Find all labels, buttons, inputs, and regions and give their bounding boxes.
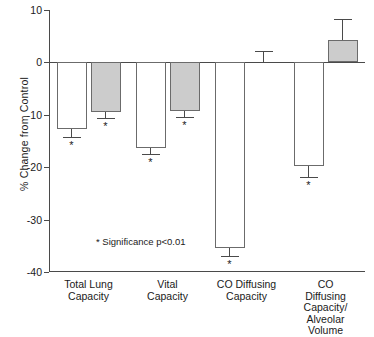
plot-area: 100-10-20-30-40 ****** <box>49 10 365 272</box>
error-bar-cap-open-0 <box>63 137 81 138</box>
bar-filled-1 <box>170 62 200 111</box>
significance-star-open-3: * <box>306 180 310 191</box>
significance-star-filled-0: * <box>103 121 107 132</box>
significance-star-open-2: * <box>227 259 231 270</box>
error-bar-stem-filled-2 <box>263 51 264 63</box>
y-tick-label: -30 <box>27 214 42 225</box>
significance-star-open-0: * <box>69 140 73 151</box>
error-bar-stem-filled-3 <box>342 19 343 40</box>
error-bar-cap-open-3 <box>300 177 318 178</box>
bar-open-2 <box>215 62 245 248</box>
y-axis-title: % Change from Control <box>18 24 30 244</box>
y-tick-mark <box>44 220 49 221</box>
error-bar-cap-filled-1 <box>176 117 194 118</box>
error-bar-cap-open-2 <box>221 256 239 257</box>
y-tick-label: -20 <box>27 162 42 173</box>
y-tick-label: -40 <box>27 267 42 278</box>
y-tick-label: -10 <box>27 110 42 121</box>
error-bar-stem-open-3 <box>308 166 309 176</box>
y-tick-mark <box>44 115 49 116</box>
error-bar-cap-filled-0 <box>97 118 115 119</box>
error-bar-stem-open-0 <box>71 129 72 136</box>
category-label-3: CO Diffusing Capacity/ Alveolar Volume <box>301 279 350 337</box>
bar-open-3 <box>294 62 324 166</box>
bar-filled-3 <box>328 40 358 62</box>
y-tick-mark <box>44 10 49 11</box>
error-bar-cap-open-1 <box>142 154 160 155</box>
y-tick-label: 0 <box>36 57 42 68</box>
y-tick-mark <box>44 272 49 273</box>
error-bar-stem-open-2 <box>229 248 230 256</box>
error-bar-cap-filled-2 <box>255 51 273 52</box>
x-axis-line <box>49 271 365 272</box>
significance-star-open-1: * <box>148 157 152 168</box>
bar-open-1 <box>136 62 166 147</box>
error-bar-cap-filled-3 <box>334 19 352 20</box>
category-label-2: CO Diffusing Capacity <box>217 279 276 302</box>
y-axis-line <box>49 10 50 272</box>
y-tick-label: 10 <box>30 5 42 16</box>
bar-filled-0 <box>91 62 121 112</box>
y-tick-mark <box>44 167 49 168</box>
bar-open-0 <box>57 62 87 129</box>
category-label-0: Total Lung Capacity <box>64 279 112 302</box>
significance-star-filled-1: * <box>182 120 186 131</box>
category-label-1: Vital Capacity <box>147 279 188 302</box>
significance-note: * Significance p<0.01 <box>96 236 186 247</box>
